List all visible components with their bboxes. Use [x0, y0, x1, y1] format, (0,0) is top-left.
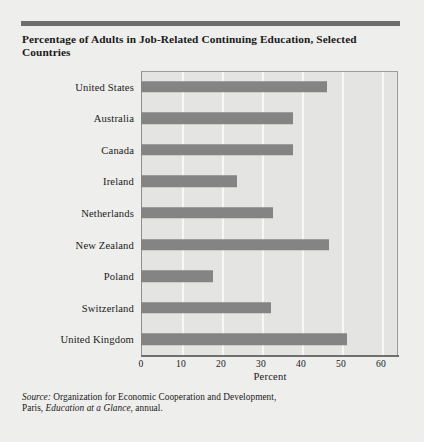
source-note: Source: Organization for Economic Cooper… [22, 392, 402, 414]
x-tick-50: 50 [336, 358, 346, 369]
source-line-2: Paris, [22, 403, 46, 413]
source-line-1: Organization for Economic Cooperation an… [51, 392, 276, 402]
bar-poland [141, 270, 213, 282]
bar-row: Poland [0, 260, 424, 292]
bar-switzerland [141, 302, 271, 314]
chart-page: Percentage of Adults in Job-Related Cont… [0, 0, 424, 442]
category-label-poland: Poland [104, 271, 134, 282]
category-label-switzerland: Switzerland [82, 302, 134, 313]
x-axis-title: Percent [141, 371, 399, 382]
category-label-canada: Canada [101, 144, 134, 155]
bar-row: Australia [0, 103, 424, 135]
source-label: Source: [22, 392, 51, 402]
category-label-united-kingdom: United Kingdom [60, 334, 134, 345]
bar-row: United Kingdom [0, 323, 424, 355]
category-label-netherlands: Netherlands [81, 207, 134, 218]
x-tick-30: 30 [256, 358, 266, 369]
bar-row: United States [0, 71, 424, 103]
bar-united-states [141, 81, 327, 93]
x-tick-60: 60 [376, 358, 386, 369]
x-tick-10: 10 [176, 358, 186, 369]
bar-canada [141, 144, 293, 156]
bar-new-zealand [141, 239, 329, 251]
bar-australia [141, 113, 293, 125]
bar-row: Switzerland [0, 292, 424, 324]
bar-row: Netherlands [0, 197, 424, 229]
category-label-new-zealand: New Zealand [76, 239, 134, 250]
x-tick-20: 20 [216, 358, 226, 369]
category-label-ireland: Ireland [103, 176, 134, 187]
bar-row: New Zealand [0, 229, 424, 261]
source-publication: Education at a Glance [46, 403, 131, 413]
category-label-united-states: United States [75, 81, 134, 92]
bar-ireland [141, 176, 237, 188]
source-line-3: , annual. [131, 403, 163, 413]
bar-row: Ireland [0, 166, 424, 198]
x-tick-0: 0 [139, 358, 144, 369]
x-tick-40: 40 [296, 358, 306, 369]
bar-united-kingdom [141, 333, 347, 345]
bar-row: Canada [0, 134, 424, 166]
bar-netherlands [141, 207, 273, 219]
category-label-australia: Australia [94, 113, 134, 124]
